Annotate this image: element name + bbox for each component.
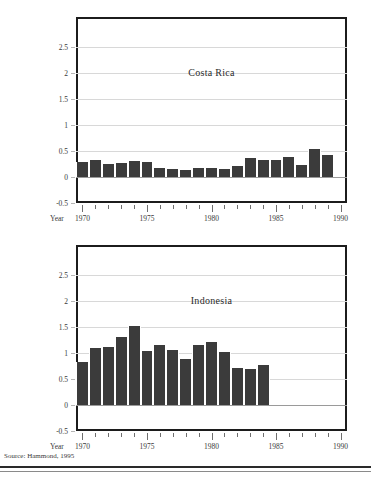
y-tick-label: 2.5 [28, 271, 68, 280]
bar [218, 169, 231, 177]
x-tick-label: 1980 [204, 442, 219, 451]
x-tick-mark [212, 433, 213, 440]
y-tick-mark [71, 73, 75, 74]
bar [295, 165, 308, 177]
x-tick-mark [121, 205, 122, 209]
x-axis-label-year: Year [50, 442, 64, 451]
x-tick-mark [237, 205, 238, 209]
zero-baseline [76, 405, 347, 406]
bar [166, 169, 179, 177]
x-tick-mark [82, 433, 83, 440]
gridline [76, 125, 347, 126]
y-tick-mark [71, 203, 75, 204]
bar [115, 337, 128, 405]
x-tick-label: 1970 [75, 442, 90, 451]
y-tick-mark [71, 327, 75, 328]
x-tick-mark [199, 205, 200, 209]
x-tick-label: 1985 [269, 214, 284, 223]
x-tick-mark [108, 433, 109, 437]
bar [102, 347, 115, 405]
x-tick-mark [134, 205, 135, 209]
bar [76, 362, 89, 405]
y-tick-label: 1 [28, 349, 68, 358]
x-tick-mark [186, 433, 187, 437]
x-tick-mark [147, 433, 148, 440]
x-tick-mark [276, 205, 277, 212]
y-tick-mark [71, 301, 75, 302]
x-tick-mark [147, 205, 148, 212]
bar [257, 365, 270, 405]
bar [89, 348, 102, 405]
bar [270, 160, 283, 177]
x-tick-mark [237, 433, 238, 437]
x-tick-mark [121, 433, 122, 437]
x-tick-mark [212, 205, 213, 212]
x-tick-mark [276, 433, 277, 440]
x-tick-mark [289, 433, 290, 437]
x-tick-mark [341, 433, 342, 440]
source-note: Source: Hammond, 1995 [4, 452, 74, 460]
y-tick-label: 0.5 [28, 147, 68, 156]
bar [89, 160, 102, 177]
bar [231, 368, 244, 405]
y-tick-mark [71, 379, 75, 380]
y-tick-label: 1.5 [28, 95, 68, 104]
y-tick-mark [71, 151, 75, 152]
y-tick-mark [71, 125, 75, 126]
x-tick-label: 1975 [139, 442, 154, 451]
chart-title-indonesia: Indonesia [76, 295, 347, 306]
bar [141, 351, 154, 405]
bar [321, 155, 334, 177]
bar [153, 168, 166, 177]
x-tick-label: 1975 [139, 214, 154, 223]
x-tick-mark [186, 205, 187, 209]
bar [115, 163, 128, 177]
x-tick-mark [134, 433, 135, 437]
x-tick-label: 1985 [269, 442, 284, 451]
x-tick-mark [82, 205, 83, 212]
gridline [76, 47, 347, 48]
bar [102, 164, 115, 177]
x-tick-mark [263, 433, 264, 437]
x-tick-mark [250, 205, 251, 209]
bar [141, 162, 154, 177]
bar [192, 345, 205, 405]
footer-rule-thick [0, 466, 371, 468]
x-tick-mark [160, 433, 161, 437]
x-tick-mark [302, 205, 303, 209]
y-tick-mark [71, 275, 75, 276]
x-tick-label: 1970 [75, 214, 90, 223]
x-tick-mark [302, 433, 303, 437]
bar [218, 352, 231, 405]
y-tick-label: -0.5 [28, 199, 68, 208]
y-tick-mark [71, 353, 75, 354]
bar [205, 168, 218, 177]
chart-panel-costa-rica: Costa Rica [76, 17, 347, 203]
x-tick-mark [95, 205, 96, 209]
bar [166, 350, 179, 405]
bar [244, 369, 257, 405]
y-tick-label: 0 [28, 401, 68, 410]
x-tick-label: 1990 [333, 442, 348, 451]
x-tick-mark [341, 205, 342, 212]
bar [244, 158, 257, 177]
bar [179, 170, 192, 177]
x-axis-label-year: Year [50, 214, 64, 223]
x-tick-mark [263, 205, 264, 209]
x-tick-mark [315, 205, 316, 209]
gridline [76, 151, 347, 152]
x-tick-label: 1990 [333, 214, 348, 223]
bar [128, 161, 141, 177]
x-tick-mark [173, 433, 174, 437]
x-tick-mark [224, 205, 225, 209]
y-tick-label: 0.5 [28, 375, 68, 384]
y-tick-mark [71, 177, 75, 178]
gridline [76, 99, 347, 100]
x-tick-mark [328, 433, 329, 437]
y-tick-label: 2.5 [28, 43, 68, 52]
figure-two-panel-bar-charts: Costa Rica Indonesia Source: Hammond, 19… [0, 0, 371, 481]
bar [153, 345, 166, 405]
bar [282, 157, 295, 177]
x-tick-mark [289, 205, 290, 209]
chart-title-costa-rica: Costa Rica [76, 67, 347, 78]
